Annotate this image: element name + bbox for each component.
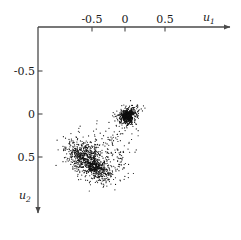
scatter-point [95,156,96,157]
scatter-point [98,157,99,158]
scatter-point [138,113,139,114]
scatter-point [106,186,107,187]
scatter-point [129,152,130,153]
scatter-point [73,164,74,165]
scatter-point [103,164,104,165]
scatter-point [134,111,135,112]
scatter-point [105,142,106,143]
scatter-point [142,110,143,111]
scatter-point [76,137,77,138]
scatter-point [58,149,59,150]
scatter-point [121,161,122,162]
scatter-point [66,153,67,154]
scatter-point [84,142,85,143]
scatter-point [97,147,98,148]
scatter-point [138,118,139,119]
scatter-point [103,175,104,176]
scatter-point [132,122,133,123]
scatter-point [72,162,73,163]
scatter-point [117,141,118,142]
scatter-point [117,149,118,150]
scatter-point [82,151,83,152]
scatter-point [100,152,101,153]
scatter-point [107,163,108,164]
scatter-point [101,150,102,151]
scatter-point [102,171,103,172]
scatter-point [96,120,97,121]
scatter-point [91,173,92,174]
scatter-point [65,161,66,162]
scatter-point [90,157,91,158]
scatter-point [114,114,115,115]
y-tick-label-0-5: 0.5 [3,152,35,163]
scatter-point [92,147,93,148]
scatter-point [83,136,84,137]
scatter-point [110,165,111,166]
scatter-point [114,149,115,150]
scatter-point [84,155,85,156]
scatter-point [71,139,72,140]
scatter-point [93,160,94,161]
scatter-point [90,166,91,167]
scatter-point [72,142,73,143]
scatter-point [118,166,119,167]
scatter-point [88,171,89,172]
scatter-point [77,138,78,139]
scatter-point [136,124,137,125]
scatter-point [78,154,79,155]
scatter-point [131,139,132,140]
scatter-point [103,162,104,163]
scatter-point [125,121,126,122]
scatter-point [132,105,133,106]
scatter-point [98,171,99,172]
scatter-point [129,122,130,123]
scatter-point [107,177,108,178]
scatter-point [107,170,108,171]
scatter-point [78,167,79,168]
scatter-point [102,165,103,166]
scatter-point [111,141,112,142]
scatter-point [71,157,72,158]
scatter-point [77,139,78,140]
scatter-point [112,155,113,156]
scatter-point [103,186,104,187]
scatter-point [100,133,101,134]
scatter-point [132,119,133,120]
scatter-point [132,126,133,127]
y-tick-label-neg-0-5: -0.5 [3,66,35,77]
scatter-point [97,170,98,171]
scatter-point [89,162,90,163]
scatter-point [71,152,72,153]
scatter-point [95,174,96,175]
scatter-point [107,179,108,180]
scatter-point [78,162,79,163]
scatter-point [108,165,109,166]
scatter-point [115,152,116,153]
scatter-point [117,134,118,135]
scatter-point [102,164,103,165]
scatter-point [69,159,70,160]
scatter-point [91,166,92,167]
scatter-point [107,149,108,150]
scatter-point [99,176,100,177]
scatter-point [74,148,75,149]
scatter-point [95,138,96,139]
scatter-point [135,113,136,114]
scatter-point [108,166,109,167]
scatter-point [102,158,103,159]
scatter-point [112,134,113,135]
scatter-point [86,150,87,151]
scatter-point [86,140,87,141]
scatter-point [113,159,114,160]
scatter-point [101,152,102,153]
scatter-point [63,136,64,137]
scatter-point [86,163,87,164]
scatter-point [129,106,130,107]
scatter-point [86,166,87,167]
scatter-point [86,172,87,173]
scatter-point [96,181,97,182]
scatter-point [125,107,126,108]
scatter-point [91,142,92,143]
scatter-point [97,182,98,183]
scatter-point [111,174,112,175]
